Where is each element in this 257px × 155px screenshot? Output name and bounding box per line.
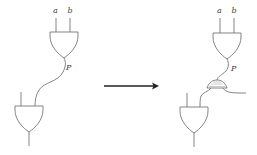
right-wire-to-bottom-gate: [200, 88, 211, 107]
right-input-label-b: b: [232, 6, 237, 15]
right-input-label-a: a: [217, 6, 222, 15]
right-wire-p: [217, 59, 228, 80]
transformation-arrow: [104, 83, 159, 90]
right-bottom-and-gate-icon: [180, 107, 208, 133]
circuit-diagram: a b P a b P: [0, 0, 257, 155]
right-label-p: P: [230, 64, 237, 73]
right-wire-fanout-out: [223, 88, 246, 93]
left-label-p: P: [65, 63, 72, 72]
left-circuit: a b P: [15, 6, 78, 146]
fanout-splitter-icon: [207, 80, 227, 88]
left-input-label-a: a: [53, 6, 58, 15]
right-circuit: a b P: [180, 6, 246, 147]
left-wire-p: [35, 58, 65, 106]
left-top-and-gate-icon: [50, 32, 78, 58]
right-top-and-gate-icon: [213, 33, 241, 59]
left-bottom-and-gate-icon: [15, 106, 43, 132]
left-input-label-b: b: [68, 6, 73, 15]
